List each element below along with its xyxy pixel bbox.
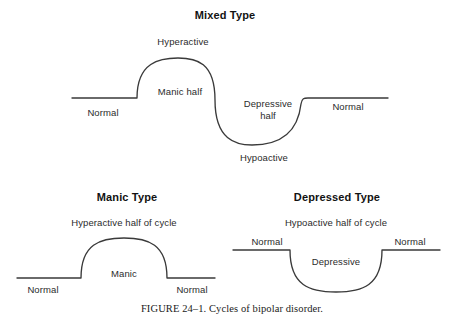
bipolar-cycle-diagrams bbox=[0, 0, 460, 321]
depressed-type-right-normal-label: Normal bbox=[394, 236, 425, 247]
mixed-type-left-normal-label: Normal bbox=[87, 107, 118, 118]
mixed-type-second-half-label-line1: Depressive bbox=[244, 98, 293, 109]
depressed-type-interior-label: Depressive bbox=[312, 256, 361, 267]
mixed-type-peak-label: Hyperactive bbox=[157, 36, 208, 47]
figure-caption: FIGURE 24–1. Cycles of bipolar disorder. bbox=[141, 303, 323, 314]
manic-type-left-normal-label: Normal bbox=[27, 284, 58, 295]
mixed-type-title: Mixed Type bbox=[195, 10, 256, 21]
mixed-type-right-normal-label: Normal bbox=[332, 101, 363, 112]
depressed-type-title: Depressed Type bbox=[294, 192, 380, 203]
mixed-type-second-half-label-line2: half bbox=[260, 110, 276, 121]
mixed-type-first-half-label: Manic half bbox=[158, 86, 202, 97]
mixed-type-trough-label: Hypoactive bbox=[240, 152, 288, 163]
figure-container: Mixed Type Hyperactive Manic half Depres… bbox=[0, 0, 460, 321]
manic-type-title: Manic Type bbox=[97, 192, 158, 203]
manic-type-subtitle: Hyperactive half of cycle bbox=[71, 217, 176, 228]
depressed-type-subtitle: Hypoactive half of cycle bbox=[285, 217, 387, 228]
depressed-type-left-normal-label: Normal bbox=[251, 236, 282, 247]
manic-type-interior-label: Manic bbox=[111, 268, 137, 279]
manic-type-right-normal-label: Normal bbox=[176, 284, 207, 295]
